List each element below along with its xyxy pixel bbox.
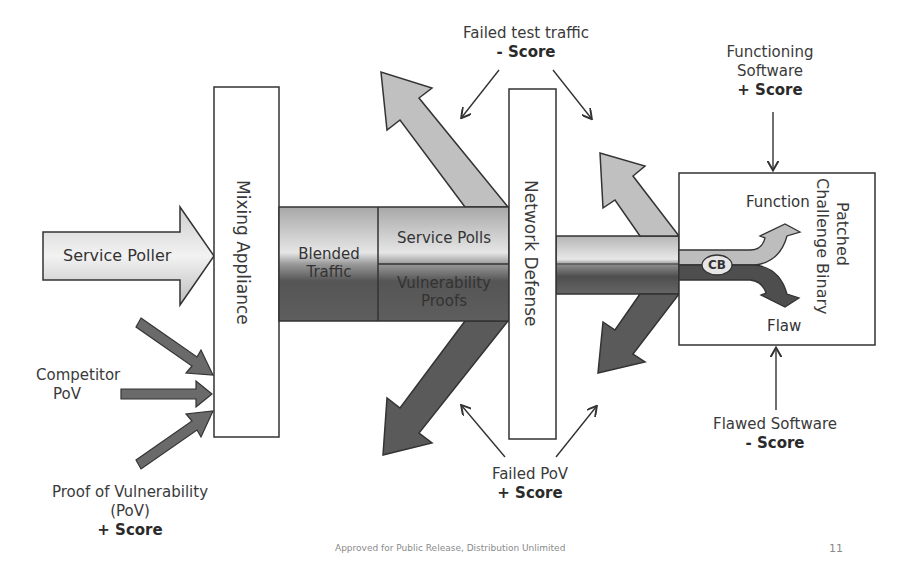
mixing-appliance-label: Mixing Appliance bbox=[233, 180, 253, 325]
patched-cb-label: Patched Challenge Binary bbox=[812, 178, 852, 315]
failed-test-traffic-annotation: Failed test traffic - Score bbox=[446, 24, 606, 62]
vulnerability-proofs-line1: Vulnerability bbox=[397, 274, 491, 292]
competitor-pov-line1: Competitor bbox=[36, 366, 120, 384]
failed-test-traffic-line1: Failed test traffic bbox=[463, 24, 589, 42]
competitor-pov-line2: PoV bbox=[53, 385, 81, 403]
failed-pov-score: + Score bbox=[497, 484, 562, 502]
flaw-label: Flaw bbox=[767, 317, 801, 335]
competitor-pov-arrows bbox=[121, 318, 213, 469]
functioning-software-annotation: Functioning Software + Score bbox=[720, 43, 820, 100]
vulnerability-proofs-label: Vulnerability Proofs bbox=[386, 274, 502, 310]
flawed-software-score: - Score bbox=[745, 434, 804, 452]
failed-pov-arrow-lower-left bbox=[383, 321, 508, 455]
functioning-software-score: + Score bbox=[737, 81, 802, 99]
function-label: Function bbox=[746, 193, 810, 211]
page-number: 11 bbox=[829, 542, 843, 555]
competitor-pov-annotation: Competitor PoV bbox=[36, 366, 98, 404]
filtered-traffic-band bbox=[556, 236, 679, 294]
proof-of-vulnerability-annotation: Proof of Vulnerability (PoV) + Score bbox=[40, 483, 220, 540]
functioning-software-line1: Functioning bbox=[727, 43, 814, 61]
failed-pov-annotation: Failed PoV + Score bbox=[480, 465, 580, 503]
failed-pov-line1: Failed PoV bbox=[492, 465, 568, 483]
vulnerability-proofs-line2: Proofs bbox=[421, 292, 467, 310]
blended-traffic-line2: Traffic bbox=[306, 263, 351, 281]
failed-pov-arrow-right bbox=[598, 294, 679, 373]
functioning-software-line2: Software bbox=[737, 62, 803, 80]
service-polls-label: Service Polls bbox=[386, 229, 502, 247]
network-defense-label: Network Defense bbox=[521, 180, 541, 326]
failed-traffic-arrow-right bbox=[600, 153, 679, 236]
patched-cb-line2: Challenge Binary bbox=[813, 178, 832, 315]
blended-traffic-label: Blended Traffic bbox=[290, 245, 368, 281]
pov-score: + Score bbox=[97, 521, 162, 539]
failed-test-traffic-score: - Score bbox=[496, 43, 555, 61]
patched-cb-line1: Patched bbox=[832, 178, 852, 266]
flawed-software-annotation: Flawed Software - Score bbox=[700, 415, 850, 453]
service-poller-label: Service Poller bbox=[63, 247, 171, 265]
pov-line1: Proof of Vulnerability bbox=[52, 483, 208, 501]
pov-line2: (PoV) bbox=[110, 502, 150, 520]
failed-traffic-arrow-upper-left bbox=[381, 72, 508, 207]
flawed-software-line1: Flawed Software bbox=[713, 415, 837, 433]
footer-release-notice: Approved for Public Release, Distributio… bbox=[335, 543, 565, 553]
cb-badge-label: CB bbox=[704, 257, 730, 273]
blended-traffic-line1: Blended bbox=[298, 245, 359, 263]
